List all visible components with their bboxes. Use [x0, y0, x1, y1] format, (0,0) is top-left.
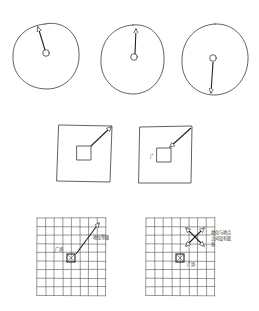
- grid-panel-2: 广场地位与地点之间没有联系: [146, 218, 232, 296]
- radial-arrow: [211, 62, 213, 93]
- arrow-label: 地位等级: [93, 234, 110, 241]
- center-node: [210, 55, 217, 62]
- crossed-arrow: [186, 228, 195, 237]
- square-mark: 广: [150, 153, 154, 160]
- center-node: [131, 54, 138, 61]
- circle-panel-2: [101, 25, 164, 94]
- square-panel-1: [57, 125, 112, 182]
- arrow-label: 系: [211, 241, 215, 247]
- concept-sketch: 广 广场地位等级 广场地位与地点之间没有联系: [0, 0, 259, 311]
- circle-outline: [182, 24, 248, 95]
- plaza-label: 广场: [55, 246, 63, 253]
- inner-square: [77, 146, 91, 160]
- circle-outline: [101, 25, 164, 94]
- radial-arrow: [38, 27, 45, 50]
- arrow-label: 地位与地点: [211, 229, 231, 236]
- inner-square: [157, 148, 171, 162]
- square-panel-2: 广: [139, 126, 192, 183]
- diagonal-arrow: [91, 127, 111, 146]
- diagonal-arrow: [170, 128, 191, 147]
- crossed-arrow: [186, 237, 195, 246]
- crossed-arrow: [195, 228, 204, 237]
- crossed-arrow: [195, 237, 204, 246]
- plaza-label: 广场: [187, 261, 195, 268]
- circle-panel-1: [13, 23, 79, 89]
- center-node: [43, 50, 50, 57]
- arrow-label: 之间没有联: [211, 235, 232, 242]
- circle-panel-3: [182, 24, 248, 95]
- radial-arrow: [135, 29, 136, 54]
- grid-panel-1: 广场地位等级: [37, 218, 110, 296]
